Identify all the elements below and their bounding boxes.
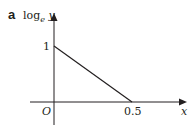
y-axis-label-var: y (48, 9, 54, 22)
y-tick-label: 1 (43, 41, 50, 52)
origin-label: O (42, 106, 51, 117)
x-axis-label: x (181, 106, 187, 117)
y-axis-label: loge y (23, 10, 55, 24)
y-axis-label-sub: e (40, 15, 45, 24)
y-axis-label-base: log (23, 9, 40, 22)
x-tick-label: 0.5 (124, 106, 142, 117)
panel-label: a (8, 8, 15, 21)
data-line (54, 46, 132, 102)
